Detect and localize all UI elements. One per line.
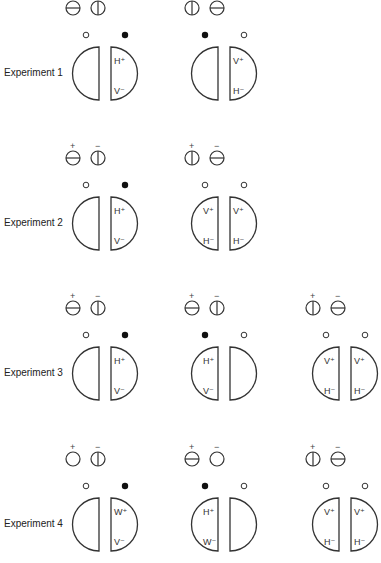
left-half-disk (73, 498, 100, 551)
plus-sign: + (310, 291, 315, 301)
right-indicator-filled-dot (122, 332, 128, 338)
right-indicator-open-dot (241, 483, 247, 489)
left-bottom-label: W⁻ (203, 537, 216, 547)
polarization-experiment-diagram: H⁺V⁻V⁺H⁻+−H⁺V⁻+−V⁺H⁻V⁺H⁻+−H⁺V⁻+−H⁺V⁻+−V⁺… (0, 0, 381, 563)
left-indicator-filled-dot (202, 32, 208, 38)
minus-sign: − (95, 291, 100, 301)
left-top-label: H⁺ (203, 356, 214, 366)
right-indicator-open-dot (241, 32, 247, 38)
right-half-disk (230, 347, 257, 400)
right-top-label: V⁺ (354, 507, 365, 517)
minus-sign: − (335, 442, 340, 452)
left-half-disk (192, 47, 218, 100)
left-top-label: H⁺ (203, 507, 214, 517)
right-indicator-open-dot (241, 182, 247, 188)
left-half-disk (73, 197, 100, 250)
left-bottom-label: H⁻ (203, 236, 214, 246)
minus-sign: − (214, 291, 219, 301)
right-top-label: V⁺ (354, 356, 365, 366)
right-bottom-label: V⁻ (114, 236, 125, 246)
left-indicator-open-dot (83, 332, 89, 338)
left-top-label: V⁺ (324, 507, 335, 517)
left-bottom-label: H⁻ (324, 537, 335, 547)
plus-sign: + (189, 442, 194, 452)
left-bottom-label: V⁻ (203, 386, 214, 396)
right-top-label: H⁺ (114, 356, 125, 366)
left-indicator-filled-dot (202, 483, 208, 489)
right-indicator-filled-dot (122, 182, 128, 188)
left-indicator-open-dot (323, 332, 329, 338)
left-indicator-filled-dot (202, 332, 208, 338)
right-bottom-label: V⁻ (114, 86, 125, 96)
left-indicator-open-dot (83, 32, 89, 38)
left-top-label: V⁺ (324, 356, 335, 366)
filter-empty-icon (66, 452, 80, 466)
right-bottom-label: V⁻ (114, 537, 125, 547)
left-indicator-open-dot (202, 182, 208, 188)
right-indicator-open-dot (362, 332, 368, 338)
left-bottom-label: H⁻ (324, 386, 335, 396)
minus-sign: − (335, 291, 340, 301)
minus-sign: − (95, 141, 100, 151)
minus-sign: − (214, 442, 219, 452)
right-bottom-label: H⁻ (233, 236, 244, 246)
right-bottom-label: V⁻ (114, 386, 125, 396)
plus-sign: + (310, 442, 315, 452)
left-indicator-open-dot (323, 483, 329, 489)
plus-sign: + (189, 291, 194, 301)
right-bottom-label: H⁻ (233, 86, 244, 96)
right-indicator-open-dot (362, 483, 368, 489)
right-half-disk (230, 498, 257, 551)
left-half-disk (73, 347, 100, 400)
plus-sign: + (70, 291, 75, 301)
right-top-label: V⁺ (233, 206, 244, 216)
minus-sign: − (214, 141, 219, 151)
filter-empty-icon (210, 452, 224, 466)
left-top-label: V⁺ (203, 206, 214, 216)
plus-sign: + (70, 141, 75, 151)
minus-sign: − (95, 442, 100, 452)
left-half-disk (73, 47, 99, 100)
right-top-label: W⁺ (114, 507, 127, 517)
right-indicator-open-dot (241, 332, 247, 338)
right-indicator-filled-dot (122, 483, 128, 489)
right-bottom-label: H⁻ (354, 537, 365, 547)
left-indicator-open-dot (83, 182, 89, 188)
plus-sign: + (189, 141, 194, 151)
left-indicator-open-dot (83, 483, 89, 489)
right-indicator-filled-dot (122, 32, 128, 38)
right-top-label: H⁺ (114, 206, 125, 216)
right-bottom-label: H⁻ (354, 386, 365, 396)
plus-sign: + (70, 442, 75, 452)
right-top-label: V⁺ (233, 56, 244, 66)
right-top-label: H⁺ (114, 56, 125, 66)
